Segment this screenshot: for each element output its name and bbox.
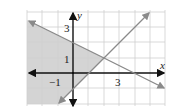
y-tick-1: 1 <box>64 53 70 65</box>
y-tick-3: 3 <box>64 22 70 34</box>
x-tick-neg1: −1 <box>49 76 61 88</box>
y-axis-label: y <box>76 9 82 21</box>
x-tick-3: 3 <box>115 76 121 88</box>
inequality-graph: x y −1 3 1 3 <box>0 0 172 112</box>
boundary-line-ascending <box>104 13 149 58</box>
x-axis-label: x <box>159 59 165 71</box>
